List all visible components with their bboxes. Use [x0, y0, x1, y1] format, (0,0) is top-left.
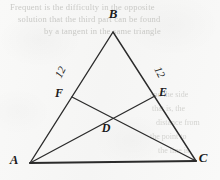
segment-ab [30, 32, 113, 163]
point-label-e: E [159, 85, 167, 100]
vertex-label-b: B [109, 6, 118, 22]
segment-ac [30, 161, 196, 163]
vertex-label-c: C [199, 150, 208, 166]
vertex-label-a: A [10, 152, 19, 168]
point-label-d: D [102, 121, 111, 136]
geometry-canvas [0, 0, 220, 180]
geometry-figure: Frequent is the difficulty in the opposi… [0, 0, 220, 180]
point-label-f: F [55, 86, 63, 101]
